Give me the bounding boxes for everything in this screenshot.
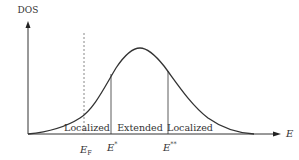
region-label-localized-right: Localized — [167, 122, 213, 133]
region-label-localized-left: Localized — [64, 122, 110, 133]
x-axis-label: E — [285, 128, 294, 139]
dos-diagram: DOS E Localized Extended Localized EF E*… — [0, 0, 299, 160]
y-axis-arrow-icon — [26, 21, 31, 28]
fermi-energy-label: EF — [79, 144, 92, 157]
mobility-edge-upper-label: E** — [162, 140, 178, 153]
mobility-edge-lower-label: E* — [106, 140, 118, 153]
region-label-extended: Extended — [117, 122, 163, 133]
y-axis: DOS — [18, 5, 39, 134]
y-axis-label: DOS — [18, 5, 39, 15]
x-axis-arrow-icon — [273, 132, 281, 137]
